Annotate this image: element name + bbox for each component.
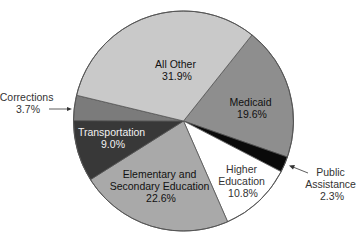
elementary-pct: 22.6%	[146, 192, 176, 204]
higher-education-line2: Education	[218, 175, 265, 187]
public-assistance-line2: Assistance	[305, 178, 356, 190]
transportation-pct: 9.0%	[101, 138, 125, 150]
pie-slices	[73, 11, 293, 231]
public-assistance-pct: 2.3%	[320, 190, 344, 202]
corrections-arrowhead-icon	[67, 107, 72, 111]
all-other-name: All Other	[155, 58, 196, 70]
transportation-name: Transportation	[78, 126, 145, 138]
public-assistance-label: Public Assistance 2.3%	[305, 166, 359, 202]
corrections-name: Corrections	[0, 91, 53, 103]
higher-education-line1: Higher	[226, 163, 257, 175]
pie-chart: All Other 31.9% Medicaid 19.6% Correctio…	[0, 0, 360, 238]
elementary-line1: Elementary and	[123, 168, 197, 180]
public-assistance-line1: Public	[316, 166, 345, 178]
elementary-line2: Secondary Education	[110, 180, 210, 192]
higher-education-pct: 10.8%	[228, 187, 258, 199]
medicaid-name: Medicaid	[230, 96, 272, 108]
medicaid-pct: 19.6%	[237, 108, 267, 120]
corrections-pct: 3.7%	[16, 103, 40, 115]
corrections-label: Corrections 3.7%	[0, 91, 56, 115]
public-assistance-arrow	[293, 167, 308, 173]
all-other-pct: 31.9%	[162, 70, 192, 82]
